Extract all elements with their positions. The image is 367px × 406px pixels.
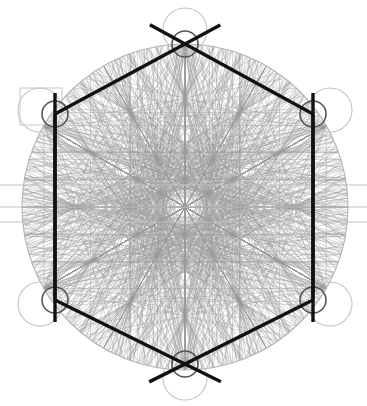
diagram-canvas — [0, 0, 367, 406]
geometry-figure — [0, 0, 367, 406]
